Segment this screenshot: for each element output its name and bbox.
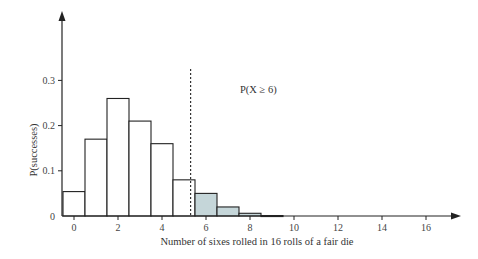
x-tick-label: 14	[377, 222, 387, 233]
x-axis-label: Number of sixes rolled in 16 rolls of a …	[160, 236, 353, 247]
histogram-bar	[129, 121, 151, 216]
histogram-bar	[217, 207, 239, 216]
histogram-bars	[63, 98, 283, 216]
histogram-bar	[85, 139, 107, 216]
histogram-bar	[107, 98, 129, 216]
histogram-bar	[195, 193, 217, 216]
x-tick-label: 4	[160, 222, 165, 233]
y-tick-label: 0.3	[43, 75, 56, 86]
x-tick-label: 8	[248, 222, 253, 233]
x-tick-label: 12	[333, 222, 343, 233]
y-tick-label: 0.1	[43, 165, 56, 176]
x-tick-label: 10	[289, 222, 299, 233]
x-tick-label: 16	[421, 222, 431, 233]
x-tick-label: 2	[116, 222, 121, 233]
x-axis-arrow-icon	[451, 213, 461, 220]
y-axis-label: P(successes)	[28, 123, 40, 177]
x-ticks: 0246810121416	[72, 216, 432, 233]
histogram-bar	[173, 180, 195, 216]
histogram-bar	[63, 192, 85, 216]
annotation-p-x-ge-6: P(X ≥ 6)	[240, 84, 277, 96]
y-ticks: 00.10.20.3	[43, 75, 63, 222]
y-tick-label: 0.2	[43, 120, 56, 131]
y-tick-label: 0	[50, 211, 55, 222]
x-tick-label: 6	[204, 222, 209, 233]
binomial-histogram: 0246810121416 00.10.20.3 P(X ≥ 6) Number…	[0, 0, 478, 259]
histogram-bar	[151, 144, 173, 216]
y-axis-arrow-icon	[59, 11, 66, 21]
x-tick-label: 0	[72, 222, 77, 233]
